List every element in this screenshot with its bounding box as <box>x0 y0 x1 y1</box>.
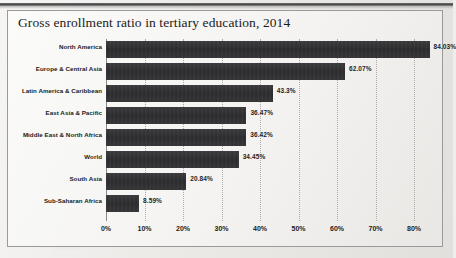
bar-row: North America84.03% <box>106 39 414 61</box>
category-label: Europe & Central Asia <box>36 65 102 72</box>
bar-row: South Asia20.84% <box>106 171 414 193</box>
x-tick-70%: 70% <box>368 225 382 232</box>
bar <box>106 63 345 80</box>
bar-value-label: 84.03% <box>434 43 456 50</box>
x-tick-60%: 60% <box>330 225 344 232</box>
category-label: East Asia & Pacific <box>46 109 102 116</box>
category-label: Middle East & North Africa <box>23 131 102 138</box>
bar <box>106 129 246 146</box>
category-label: South Asia <box>69 175 102 182</box>
x-tick-10%: 10% <box>137 225 151 232</box>
bar-value-label: 20.84% <box>190 175 213 182</box>
bar <box>106 85 273 102</box>
chart-title: Gross enrollment ratio in tertiary educa… <box>18 15 290 31</box>
page-top-rule-shadow <box>0 6 453 9</box>
bar-value-label: 36.42% <box>250 131 273 138</box>
bar-row: East Asia & Pacific36.47% <box>106 105 414 127</box>
bar <box>106 151 239 168</box>
bar <box>106 195 139 212</box>
bar-row: Latin America & Caribbean43.3% <box>106 83 414 105</box>
category-label: North America <box>59 43 102 50</box>
category-label: Latin America & Caribbean <box>22 87 102 94</box>
gridline-80% <box>414 39 416 221</box>
bar-value-label: 36.47% <box>250 109 273 116</box>
bar <box>106 173 186 190</box>
x-tick-50%: 50% <box>291 225 305 232</box>
bar-value-label: 34.45% <box>243 153 266 160</box>
category-label: World <box>84 153 102 160</box>
plot-area: North America84.03%Europe & Central Asia… <box>106 39 414 221</box>
bar-row: Middle East & North Africa36.42% <box>106 127 414 149</box>
bar-value-label: 8.59% <box>143 197 162 204</box>
chart-container: Gross enrollment ratio in tertiary educa… <box>7 10 443 247</box>
category-label: Sub-Saharan Africa <box>44 197 102 204</box>
bar <box>106 41 430 58</box>
bar-value-label: 62.07% <box>349 65 372 72</box>
x-tick-40%: 40% <box>253 225 267 232</box>
x-tick-0%: 0% <box>101 225 111 232</box>
bar-series: North America84.03%Europe & Central Asia… <box>106 39 414 221</box>
bar-row: World34.45% <box>106 149 414 171</box>
bar-value-label: 43.3% <box>277 87 296 94</box>
bar <box>106 107 246 124</box>
x-axis-tick-labels: 0%10%20%30%40%50%60%70%80% <box>106 225 414 239</box>
x-tick-30%: 30% <box>214 225 228 232</box>
bar-row: Sub-Saharan Africa8.59% <box>106 193 414 215</box>
x-tick-80%: 80% <box>407 225 421 232</box>
x-tick-20%: 20% <box>176 225 190 232</box>
bar-row: Europe & Central Asia62.07% <box>106 61 414 83</box>
